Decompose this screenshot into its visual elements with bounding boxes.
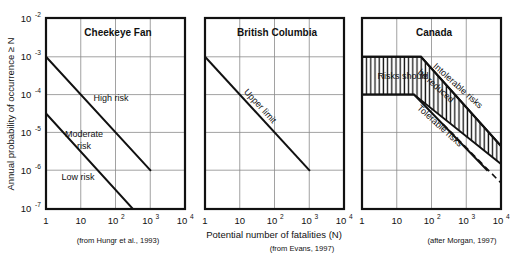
panel-1-x-tick-3-base: 10 (142, 215, 153, 226)
panel-2-x-tick-0-base: 1 (202, 215, 207, 226)
y-axis-title-text: Annual probability of occurrence ≥ N (5, 37, 16, 190)
panel-1-title: Cheekeye Fan (84, 27, 151, 38)
panel-1-x-tick-4-base: 10 (177, 215, 188, 226)
y-tick-1: 10 -3 (21, 49, 41, 62)
panel-1-credit: (from Hungr et al., 1993) (77, 236, 160, 245)
panel-3-x-tick-3-base: 10 (458, 215, 469, 226)
moderate-risk-label-line2: risk (77, 141, 91, 151)
panel-1-x-tick-2-exp: 2 (121, 213, 125, 220)
panel-1-x-tick-4: 10 4 (177, 213, 194, 226)
panel-3-x-tick-1-base: 10 (391, 215, 402, 226)
y-tick-4: 10 -6 (21, 163, 41, 176)
y-axis-ticks: 10 -2 10 -3 10 -4 10 -5 10 -6 10 -7 (21, 11, 41, 214)
panel-1-x-tick-4-exp: 4 (190, 213, 194, 220)
panel-1-x-tick-1: 10 (75, 215, 86, 226)
y-tick-0-exp: -2 (35, 11, 41, 18)
panel-1-x-tick-0-base: 1 (43, 215, 48, 226)
figure-container: Annual probability of occurrence ≥ N 10 … (0, 0, 532, 262)
y-tick-1-exp: -3 (35, 49, 41, 56)
panel-2-x-tick-4: 10 4 (336, 213, 353, 226)
upper-limit-label: Upper limit (242, 87, 279, 126)
panel-2-x-tick-1: 10 (234, 215, 245, 226)
upper-limit-line (205, 57, 309, 170)
panel-cheekeye-fan: Cheekeye Fan High risk Moderate risk Low… (43, 18, 194, 245)
y-tick-4-exp: -6 (35, 163, 41, 170)
panel-3-x-tick-2: 10 2 (424, 213, 441, 226)
panel-2-x-tick-4-base: 10 (336, 215, 347, 226)
y-tick-5-exp: -7 (35, 201, 41, 208)
panel-2-x-tick-4-exp: 4 (349, 213, 353, 220)
high-risk-boundary-line (46, 57, 150, 170)
moderate-risk-label-line1: Moderate (65, 129, 103, 139)
panel-3-x-tick-4-base: 10 (493, 215, 504, 226)
panel-2-x-tick-2-exp: 2 (280, 213, 284, 220)
y-tick-0-base: 10 (21, 13, 32, 24)
high-risk-label: High risk (93, 93, 129, 103)
y-tick-2-exp: -4 (35, 87, 41, 94)
panel-3-x-tick-0-base: 1 (359, 215, 364, 226)
panel-3-x-tick-4: 10 4 (493, 213, 510, 226)
panel-2-x-tick-2: 10 2 (267, 213, 284, 226)
y-tick-1-base: 10 (21, 51, 32, 62)
panel-1-x-tick-3-exp: 3 (156, 213, 160, 220)
panel-1-x-tick-2-base: 10 (108, 215, 119, 226)
moderate-low-boundary-line (46, 114, 133, 210)
y-tick-3-base: 10 (21, 127, 32, 138)
panel-1-x-tick-2: 10 2 (108, 213, 125, 226)
panel-3-title: Canada (416, 27, 453, 38)
y-tick-2: 10 -4 (21, 87, 41, 100)
panel-3-x-tick-2-exp: 2 (437, 213, 441, 220)
x-axis-title: Potential number of fatalities (N) (206, 229, 342, 240)
panel-2-labels: British Columbia Upper limit (237, 27, 317, 126)
panel-3-x-tick-3: 10 3 (458, 213, 475, 226)
panel-1-x-ticks: 1 10 10 2 10 3 10 4 (43, 213, 194, 226)
panel-3-x-tick-4-exp: 4 (506, 213, 510, 220)
panel-2-title: British Columbia (237, 27, 317, 38)
panel-1-x-tick-0: 1 (43, 215, 48, 226)
panel-2-x-tick-0: 1 (202, 215, 207, 226)
y-tick-3-exp: -5 (35, 125, 41, 132)
y-axis-title: Annual probability of occurrence ≥ N (5, 37, 16, 190)
y-tick-5: 10 -7 (21, 201, 41, 214)
panel-3-x-tick-0: 1 (359, 215, 364, 226)
panel-1-x-tick-3: 10 3 (142, 213, 159, 226)
panel-canada: Canada Risks should be reduced Intolerab… (359, 18, 510, 245)
y-tick-5-base: 10 (21, 203, 32, 214)
panel-3-x-tick-1: 10 (391, 215, 402, 226)
panel-2-x-ticks: 1 10 10 2 10 3 10 4 (202, 213, 353, 226)
panel-2-credit: (from Evans, 1997) (270, 244, 335, 253)
panel-1-labels: Cheekeye Fan High risk Moderate risk Low… (61, 27, 151, 182)
panel-2-x-tick-1-base: 10 (234, 215, 245, 226)
y-tick-2-base: 10 (21, 89, 32, 100)
panel-3-x-ticks: 1 10 10 2 10 3 10 4 (359, 213, 510, 226)
panel-1-x-tick-1-base: 10 (75, 215, 86, 226)
panel-2-x-tick-3: 10 3 (301, 213, 318, 226)
panel-3-x-tick-2-base: 10 (424, 215, 435, 226)
panel-2-x-tick-2-base: 10 (267, 215, 278, 226)
panel-british-columbia: British Columbia Upper limit 1 10 10 2 1… (202, 18, 353, 253)
y-tick-3: 10 -5 (21, 125, 41, 138)
low-risk-label: Low risk (61, 172, 95, 182)
panel-2-x-tick-3-base: 10 (301, 215, 312, 226)
panel-2-x-tick-3-exp: 3 (315, 213, 319, 220)
panel-2-series (205, 57, 309, 170)
y-tick-4-base: 10 (21, 165, 32, 176)
y-tick-0: 10 -2 (21, 11, 41, 24)
panel-3-credit: (after Morgan, 1997) (427, 236, 497, 245)
panel-3-x-tick-3-exp: 3 (472, 213, 476, 220)
